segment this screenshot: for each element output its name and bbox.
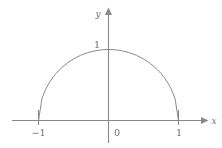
semicircle-plot: y x 1 0 −1 1 bbox=[0, 0, 222, 148]
origin-label: 0 bbox=[114, 127, 120, 138]
x-tick-label-one: 1 bbox=[176, 127, 182, 138]
y-axis-label: y bbox=[94, 9, 101, 19]
y-axis-arrow-icon bbox=[105, 8, 112, 16]
y-tick-label-one: 1 bbox=[94, 39, 100, 50]
x-axis-label: x bbox=[211, 116, 216, 126]
x-tick-label-minus-one: −1 bbox=[31, 127, 45, 138]
x-axis-arrow-icon bbox=[201, 117, 209, 124]
figure-container: y x 1 0 −1 1 bbox=[0, 0, 222, 148]
